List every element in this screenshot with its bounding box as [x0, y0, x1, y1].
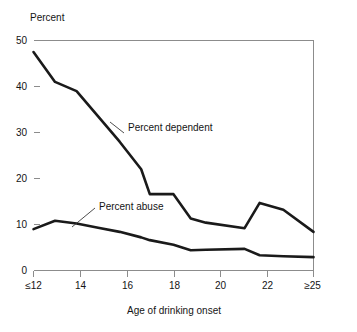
y-axis-title: Percent — [30, 12, 65, 23]
x-tick-label-16: 16 — [122, 280, 134, 291]
series-line-percent-dependent — [34, 52, 314, 232]
percent-abuse-label: Percent abuse — [99, 201, 164, 212]
line-chart: Percent 0 10 20 30 40 50 ≤12 14 16 18 20… — [0, 0, 357, 332]
y-axis-ticks — [34, 41, 40, 271]
y-tick-label-50: 50 — [16, 35, 28, 46]
plot-frame — [34, 41, 314, 271]
y-tick-label-10: 10 — [16, 219, 28, 230]
y-tick-label-0: 0 — [21, 265, 27, 276]
x-tick-label-22: 22 — [262, 280, 274, 291]
x-axis-title: Age of drinking onset — [127, 305, 221, 316]
x-tick-label-25: ≥25 — [304, 280, 321, 291]
series-line-percent-abuse — [34, 221, 314, 257]
x-tick-label-18: 18 — [169, 280, 181, 291]
chart-figure: Percent 0 10 20 30 40 50 ≤12 14 16 18 20… — [0, 0, 357, 332]
frame-path — [34, 41, 314, 271]
x-tick-label-14: 14 — [75, 280, 87, 291]
y-tick-label-40: 40 — [16, 81, 28, 92]
x-tick-label-12: ≤12 — [25, 280, 42, 291]
y-tick-label-20: 20 — [16, 173, 28, 184]
x-axis-ticks — [34, 271, 314, 277]
x-tick-label-20: 20 — [215, 280, 227, 291]
y-tick-label-30: 30 — [16, 127, 28, 138]
percent-dependent-label: Percent dependent — [128, 122, 213, 133]
